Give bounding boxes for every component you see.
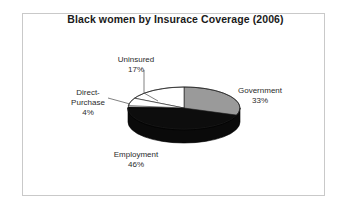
pie-label-employment-name: Employment <box>114 150 158 159</box>
pie-label-employment-percent: 46% <box>96 160 176 170</box>
pie-label-employment: Employment 46% <box>96 150 176 170</box>
pie-label-government-percent: 33% <box>224 96 296 106</box>
pie-chart: Uninsured 17% Direct- Purchase 4% Govern… <box>22 13 325 196</box>
pie-label-direct-purchase-name-line1: Direct- <box>76 88 100 97</box>
pie-label-government: Government 33% <box>224 86 296 106</box>
pie-label-government-name: Government <box>238 86 282 95</box>
pie-label-uninsured-percent: 17% <box>106 65 166 75</box>
pie-label-uninsured: Uninsured 17% <box>106 55 166 75</box>
pie-label-direct-purchase: Direct- Purchase 4% <box>60 88 116 118</box>
pie-label-direct-purchase-name-line2: Purchase <box>60 98 116 108</box>
pie-label-direct-purchase-percent: 4% <box>60 108 116 118</box>
pie-label-uninsured-name: Uninsured <box>118 55 154 64</box>
